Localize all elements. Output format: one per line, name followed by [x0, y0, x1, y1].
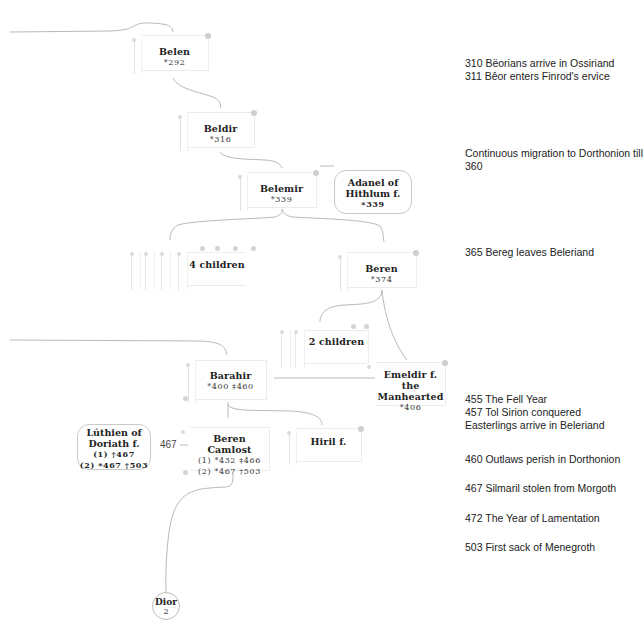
pin-icon [183, 470, 188, 475]
person-dates: *400 ‡460 [195, 381, 266, 392]
pin-icon [215, 246, 220, 251]
spouse-dates: *339 [335, 199, 411, 210]
spouse-name-line2: Doriath f. [78, 438, 150, 449]
scroll-edge [289, 431, 297, 465]
pin-icon [186, 363, 190, 367]
collapsed-stack-edge [161, 252, 171, 290]
marriage-year-label: 467 [160, 439, 177, 450]
pin-icon [358, 426, 364, 432]
pin-icon [251, 246, 256, 251]
person-dates-line1: (1) *432 ‡466 [190, 455, 269, 466]
person-node-beren-camlost[interactable]: Beren Camlost (1) *432 ‡466 (2) *467 †50… [190, 427, 270, 471]
person-name: Belemir [247, 183, 316, 194]
descendant-node-dior[interactable]: Dior 2 [152, 592, 180, 620]
scroll-edge [240, 175, 248, 211]
pin-icon [205, 33, 211, 39]
collapsed-stack-edge [131, 252, 141, 290]
collapsed-stack-edge [178, 252, 188, 290]
collapsed-stack-edge [281, 330, 291, 368]
scroll-edge [188, 363, 196, 403]
person-node-hiril[interactable]: Hiril f. [296, 428, 362, 462]
descendant-name: Dior [153, 597, 179, 607]
person-dates: *292 [141, 57, 208, 68]
person-node-belemir[interactable]: Belemir *339 [247, 172, 317, 208]
person-dates-line2: (2) *467 †503 [190, 466, 269, 477]
spouse-name-line2: Manhearted [376, 391, 445, 402]
spouse-name-line1: Emeldir f. the [376, 369, 445, 391]
collapsed-children-2[interactable]: 2 children [305, 330, 369, 364]
spouse-node-emeldir[interactable]: Emeldir f. the Manhearted *406 [376, 362, 446, 406]
pin-icon [251, 110, 257, 116]
spouse-dates-line2: (2) *467 †503 [78, 460, 150, 471]
person-name: Belen [141, 46, 208, 57]
pin-icon [367, 365, 371, 369]
timeline-event: Easterlings arrive in Beleriand [465, 419, 604, 432]
spouse-name-line1: Adanel of [335, 177, 411, 188]
timeline-event: 457 Tol Sirion conquered [465, 406, 581, 419]
scroll-edge [134, 38, 142, 74]
pin-icon [132, 38, 136, 42]
person-dates: *316 [187, 134, 254, 145]
pin-icon [442, 360, 448, 366]
person-name: Barahir [195, 370, 266, 381]
person-name: Hiril f. [296, 436, 361, 447]
timeline-event: 455 The Fell Year [465, 393, 547, 406]
pin-icon [364, 324, 369, 329]
spouse-name-line2: Hithlum f. [335, 188, 411, 199]
timeline-event: 503 First sack of Menegroth [465, 541, 595, 554]
person-name: Beldir [187, 123, 254, 134]
pin-icon [313, 170, 319, 176]
children-count-label: 2 children [305, 336, 368, 347]
spouse-node-luthien[interactable]: Lúthien of Doriath f. (1) †467 (2) *467 … [77, 424, 151, 470]
person-node-beren-374[interactable]: Beren *374 [347, 252, 417, 288]
spouse-dates-line1: (1) †467 [78, 449, 150, 460]
pin-icon [413, 250, 419, 256]
descendant-count: 2 [153, 607, 179, 617]
timeline-event: Continuous migration to Dorthonion till [465, 147, 643, 160]
collapsed-stack-edge [295, 330, 305, 368]
pin-icon [200, 246, 205, 251]
collapsed-stack-edge [145, 252, 155, 290]
pin-icon [183, 396, 188, 401]
person-name: Beren Camlost [190, 433, 269, 455]
person-node-belen[interactable]: Belen *292 [141, 35, 209, 71]
connector-lines [0, 0, 644, 629]
scroll-edge [180, 115, 188, 151]
person-node-beldir[interactable]: Beldir *316 [187, 112, 255, 148]
timeline-event: 460 Outlaws perish in Dorthonion [465, 453, 620, 466]
timeline-event: 365 Bereg leaves Beleriand [465, 246, 594, 259]
collapsed-children-4[interactable]: 4 children [188, 252, 246, 286]
pin-icon [178, 115, 182, 119]
person-dates: *374 [347, 274, 416, 285]
pin-icon [351, 324, 356, 329]
timeline-event: 467 Silmaril stolen from Morgoth [465, 482, 616, 495]
family-tree-canvas: Belen *292 Beldir *316 Belemir *339 Adan… [0, 0, 644, 629]
pin-icon [181, 430, 185, 434]
spouse-dates: *406 [376, 402, 445, 413]
timeline-event: 311 Bêor enters Finrod's ervice [465, 70, 610, 83]
pin-icon [287, 431, 291, 435]
timeline-event: 310 Bëorians arrive in Ossiriand [465, 57, 614, 70]
pin-icon [338, 255, 342, 259]
children-count-label: 4 children [188, 259, 246, 270]
scroll-edge [340, 255, 348, 291]
spouse-node-adanel[interactable]: Adanel of Hithlum f. *339 [334, 170, 412, 214]
spouse-name-line1: Lúthien of [78, 427, 150, 438]
person-dates: *339 [247, 194, 316, 205]
pin-icon [233, 246, 238, 251]
timeline-event: 472 The Year of Lamentation [465, 512, 600, 525]
person-name: Beren [347, 263, 416, 274]
person-node-barahir[interactable]: Barahir *400 ‡460 [195, 360, 267, 400]
timeline-event: 360 [465, 160, 483, 173]
pin-icon [238, 175, 242, 179]
